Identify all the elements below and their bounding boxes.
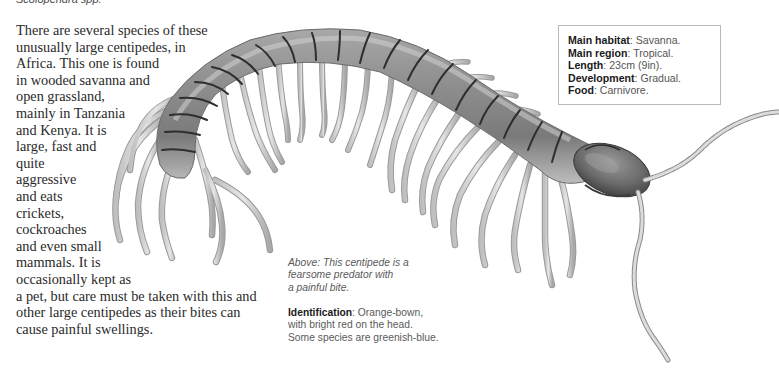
fact-label: Development [568,72,635,84]
fact-label: Main habitat [568,34,630,46]
description-line: open grassland, [16,88,257,105]
description-line: cockroaches [16,221,257,238]
fact-row-development: Development: Gradual. [568,72,720,85]
fact-row-region: Main region: Tropical. [568,47,720,60]
description-line: crickets, [16,205,257,222]
description-line: large, fast and [16,138,257,155]
fact-value: : Tropical. [627,47,673,59]
description-paragraph: There are several species of these unusu… [16,22,257,337]
identification-note: Identification: Orange-bown, with bright… [288,307,439,344]
description-line: unusually large centipedes, in [16,39,257,56]
fact-row-food: Food: Carnivore. [568,84,720,97]
description-line: Africa. This one is found [16,55,257,72]
fact-value: : Gradual. [635,72,682,84]
identification-label: Identification [288,307,352,318]
description-line: occasionally kept as [16,271,257,288]
identification-line: with bright red on the head. [288,319,439,331]
antennae-group [634,112,779,360]
fact-value: : 23cm (9in). [603,59,662,71]
fact-value: : Savanna. [630,34,681,46]
description-line: and eats [16,188,257,205]
description-line: in wooded savanna and [16,72,257,89]
fact-row-habitat: Main habitat: Savanna. [568,34,720,47]
description-line: and Kenya. It is [16,122,257,139]
description-line: and even small [16,238,257,255]
description-line: aggressive [16,171,257,188]
description-line: mainly in Tanzania [16,105,257,122]
identification-line: Identification: Orange-bown, [288,307,439,319]
identification-line: Some species are greenish-blue. [288,332,439,344]
photo-caption: Above: This centipede is a fearsome pred… [288,257,409,294]
fact-row-length: Length: 23cm (9in). [568,59,720,72]
caption-line: Above: This centipede is a [288,257,409,269]
identification-value: : Orange-bown, [352,307,423,318]
description-line: cause painful swellings. [16,321,257,338]
fact-label: Food [568,84,594,96]
fact-label: Length [568,59,603,71]
fact-value: : Carnivore. [594,84,649,96]
description-line: quite [16,155,257,172]
caption-line: fearsome predator with [288,269,409,281]
description-line: other large centipedes as their bites ca… [16,304,257,321]
description-line: mammals. It is [16,254,257,271]
description-line: a pet, but care must be taken with this … [16,288,257,305]
caption-line: a painful bite. [288,282,409,294]
description-line: There are several species of these [16,22,257,39]
fact-box: Main habitat: Savanna. Main region: Trop… [558,25,721,105]
fact-label: Main region [568,47,627,59]
